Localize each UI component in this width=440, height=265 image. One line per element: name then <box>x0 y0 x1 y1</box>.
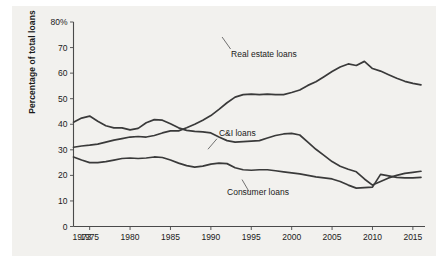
y-tick-label: 70 <box>58 43 68 53</box>
x-axis-tick-labels: 1973197519801985199019952000200520102015 <box>73 232 423 242</box>
annotation-leader-line <box>208 139 217 150</box>
x-tick-label: 2005 <box>323 232 342 242</box>
annotation-label: Consumer loans <box>227 187 289 197</box>
annotation-label: Real estate loans <box>231 49 297 59</box>
annotation-labels: Real estate loansC&I loansConsumer loans <box>219 49 297 197</box>
x-tick-label: 1990 <box>201 232 220 242</box>
series-line-consumer-loans <box>74 157 421 188</box>
y-tick-label: 80% <box>50 17 67 27</box>
x-tick-label: 1980 <box>121 232 140 242</box>
y-tick-label: 20 <box>58 170 68 180</box>
annotation-leader-line <box>222 37 231 49</box>
y-tick-label: 50 <box>58 94 68 104</box>
y-tick-label: 40 <box>58 119 68 129</box>
chart-figure: Percentage of total loans 01020304050607… <box>0 0 440 265</box>
y-tick-label: 10 <box>58 196 68 206</box>
y-tick-label: 60 <box>58 68 68 78</box>
annotation-leader-lines <box>208 37 249 192</box>
line-chart: 01020304050607080% 197319751980198519901… <box>0 0 440 265</box>
series-line-c-i-loans <box>74 116 421 185</box>
x-tick-label: 2015 <box>403 232 422 242</box>
y-axis-tick-labels: 01020304050607080% <box>50 17 67 232</box>
x-tick-label: 1995 <box>242 232 261 242</box>
annotation-label: C&I loans <box>219 128 256 138</box>
y-tick-label: 30 <box>58 145 68 155</box>
x-tick-label: 1985 <box>161 232 180 242</box>
chart-series-group <box>74 61 421 188</box>
y-tick-label: 0 <box>63 222 68 232</box>
x-tick-label: 2010 <box>363 232 382 242</box>
x-tick-label: 2000 <box>282 232 301 242</box>
x-tick-label: 1975 <box>80 232 99 242</box>
